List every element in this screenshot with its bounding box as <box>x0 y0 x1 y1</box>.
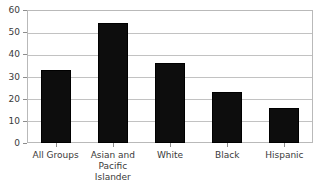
y-axis-tick-mark <box>23 143 27 144</box>
x-axis-tick-slot <box>141 143 198 148</box>
category-label-line1: Black <box>215 150 239 160</box>
y-axis-tick-label: 40 <box>9 49 20 60</box>
x-axis-tick-slot <box>256 143 313 148</box>
bar-slot <box>199 10 256 143</box>
bar-chart-figure: 0102030405060 All GroupsAsian andPacific… <box>0 0 324 181</box>
bars-layer <box>27 10 313 143</box>
x-axis-tick-mark <box>56 143 57 147</box>
bar-slot <box>141 10 198 143</box>
bar[interactable] <box>155 63 185 143</box>
x-axis-tick-marks <box>27 143 313 148</box>
y-axis-tick-mark <box>23 121 27 122</box>
y-axis-tick: 50 <box>0 27 27 38</box>
bar[interactable] <box>41 70 71 143</box>
y-axis-tick: 30 <box>0 72 27 83</box>
y-axis-tick-mark <box>23 10 27 11</box>
y-axis-tick: 40 <box>0 49 27 60</box>
y-axis-tick-label: 10 <box>9 116 20 127</box>
y-axis-tick-label: 0 <box>14 138 20 149</box>
y-axis-tick-mark <box>23 77 27 78</box>
y-axis-tick-label: 50 <box>9 27 20 38</box>
bar[interactable] <box>98 23 128 143</box>
y-axis-tick-label: 20 <box>9 94 20 105</box>
x-axis-tick-mark <box>227 143 228 147</box>
x-axis-tick-mark <box>284 143 285 147</box>
category-label-line1: All Groups <box>33 150 79 160</box>
x-axis-tick-slot <box>84 143 141 148</box>
y-axis-tick: 0 <box>0 138 27 149</box>
y-axis-tick-mark <box>23 99 27 100</box>
x-axis-tick-slot <box>199 143 256 148</box>
bar-slot <box>256 10 313 143</box>
plot-wrapper: 0102030405060 <box>0 0 324 150</box>
x-axis-tick-slot <box>27 143 84 148</box>
y-axis-tick: 20 <box>0 94 27 105</box>
y-axis-tick-label: 60 <box>9 5 20 16</box>
bar[interactable] <box>212 92 242 143</box>
y-axis-tick-mark <box>23 54 27 55</box>
bar-slot <box>84 10 141 143</box>
clipped-caption-strip <box>0 173 324 181</box>
y-axis-tick: 60 <box>0 5 27 16</box>
y-axis-tick-label: 30 <box>9 72 20 83</box>
category-label-line1: White <box>157 150 183 160</box>
x-axis-tick-mark <box>170 143 171 147</box>
bar-slot <box>27 10 84 143</box>
bar[interactable] <box>269 108 299 143</box>
category-label-line1: Asian and <box>91 150 135 160</box>
category-label-line1: Hispanic <box>265 150 303 160</box>
y-axis-tick-mark <box>23 32 27 33</box>
y-axis-tick: 10 <box>0 116 27 127</box>
x-axis-tick-mark <box>113 143 114 147</box>
